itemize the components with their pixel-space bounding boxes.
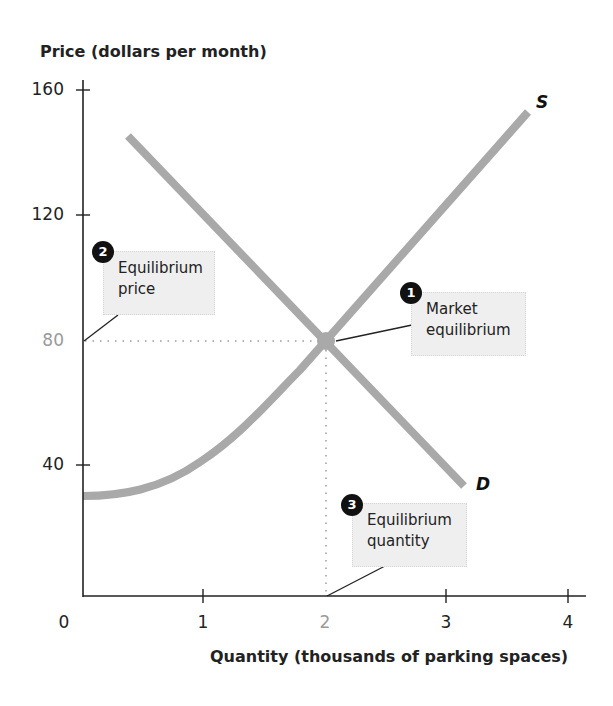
callout-text-line1: Equilibrium [118, 258, 204, 279]
leader-line-equilibrium-price [84, 315, 118, 341]
y-tick-label-120: 120 [24, 204, 64, 224]
callout-equilibrium-quantity: Equilibrium quantity [352, 503, 467, 567]
y-tick-label-160: 160 [24, 79, 64, 99]
callout-equilibrium-price: Equilibrium price [103, 251, 215, 315]
demand-curve-label: D [476, 474, 490, 494]
x-tick-label-1: 1 [193, 612, 213, 632]
number-badge-3: 3 [341, 494, 363, 516]
callout-text-line1: Market [426, 299, 515, 320]
callout-text-line2: equilibrium [426, 320, 515, 341]
x-tick-label-4: 4 [558, 612, 578, 632]
callout-text-line2: price [118, 279, 204, 300]
y-tick-label-80: 80 [24, 330, 64, 350]
leader-line-market-equilibrium [336, 325, 412, 341]
y-tick-label-40: 40 [24, 454, 64, 474]
equilibrium-point [317, 332, 335, 350]
supply-curve-label: S [536, 92, 548, 112]
number-badge-1: 1 [400, 282, 422, 304]
x-tick-label-3: 3 [436, 612, 456, 632]
x-tick-label-2: 2 [315, 612, 335, 632]
origin-label: 0 [54, 612, 74, 632]
callout-text-line1: Equilibrium [367, 510, 456, 531]
leader-line-equilibrium-quantity [327, 566, 385, 596]
callout-market-equilibrium: Market equilibrium [411, 292, 526, 356]
callout-text-line2: quantity [367, 531, 456, 552]
number-badge-2: 2 [92, 241, 114, 263]
